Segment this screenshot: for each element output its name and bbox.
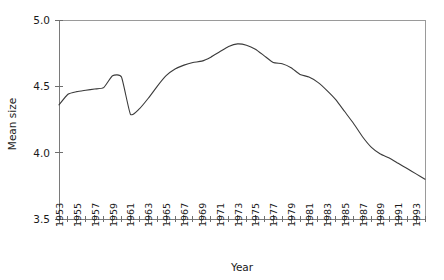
y-tick-label: 4.5 [33, 80, 50, 92]
y-tick-label: 4.0 [33, 147, 50, 159]
x-tick-label: 1973 [233, 203, 244, 227]
x-tick-label: 1953 [54, 203, 65, 227]
x-tick-label: 1971 [215, 203, 226, 227]
x-tick-label: 1981 [304, 203, 315, 227]
line-chart: 3.54.04.55.0 195319551957195919611963196… [0, 0, 444, 280]
x-tick-label: 1967 [179, 203, 190, 227]
x-tick-label: 1975 [250, 203, 261, 227]
x-tick-label: 1985 [340, 203, 351, 227]
x-tick-label: 1969 [197, 203, 208, 227]
x-tick-label: 1965 [161, 203, 172, 227]
x-tick-label: 1961 [125, 203, 136, 227]
x-tick-label: 1955 [72, 203, 83, 227]
y-axis-title: Mean size [6, 98, 18, 150]
y-axis-tick-labels: 3.54.04.55.0 [33, 14, 50, 225]
x-tick-label: 1991 [393, 203, 404, 227]
x-tick-label: 1987 [358, 203, 369, 227]
data-series-line [59, 44, 425, 179]
x-axis-title: Year [230, 261, 254, 273]
x-tick-label: 1989 [375, 203, 386, 227]
x-tick-label: 1983 [322, 203, 333, 227]
chart-container: 3.54.04.55.0 195319551957195919611963196… [0, 0, 444, 280]
x-axis-tick-labels: 1953195519571959196119631965196719691971… [54, 203, 422, 227]
plot-frame [59, 20, 425, 219]
x-tick-label: 1977 [268, 203, 279, 227]
x-tick-label: 1979 [286, 203, 297, 227]
x-tick-label: 1957 [90, 203, 101, 227]
x-tick-label: 1959 [108, 203, 119, 227]
x-tick-label: 1993 [411, 203, 422, 227]
y-tick-label: 3.5 [33, 213, 50, 225]
x-tick-label: 1963 [143, 203, 154, 227]
y-tick-label: 5.0 [33, 14, 50, 26]
